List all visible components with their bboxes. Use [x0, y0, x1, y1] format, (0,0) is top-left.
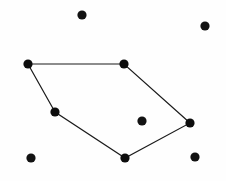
hull-vertex-dot-5[interactable] — [50, 107, 59, 116]
point-set-plot — [0, 0, 226, 181]
interior-point-dot-1[interactable] — [137, 116, 146, 125]
hull-vertex-dot-1[interactable] — [23, 59, 32, 68]
exterior-point-dot-1[interactable] — [77, 10, 86, 19]
convex-hull-figure — [0, 0, 226, 181]
exterior-point-dot-2[interactable] — [200, 21, 209, 30]
hull-vertex-dot-2[interactable] — [119, 59, 128, 68]
exterior-point-dot-3[interactable] — [26, 153, 35, 162]
interior-point-group — [137, 116, 146, 125]
hull-vertex-dot-3[interactable] — [185, 118, 194, 127]
hull-vertex-dot-4[interactable] — [120, 153, 129, 162]
exterior-point-dot-4[interactable] — [190, 152, 199, 161]
